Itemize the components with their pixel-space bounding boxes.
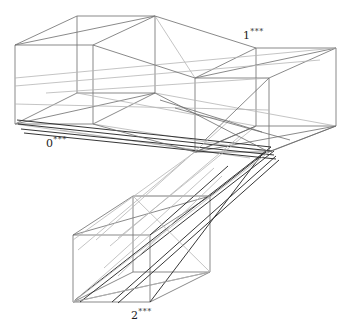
box-0-front-face (15, 45, 93, 124)
label-0-star: 0*** (46, 136, 67, 149)
figure-container: 0*** 1*** 2*** (0, 0, 346, 331)
box-2-edge-br (150, 272, 210, 302)
wireframe-diagram (0, 0, 346, 331)
box-0-edge-bl (15, 93, 77, 124)
label-2-superscript: *** (138, 307, 152, 316)
box-0-diag-top (15, 16, 155, 45)
box-1-diag-top (195, 48, 336, 78)
label-2-star: 2*** (131, 308, 152, 321)
descend-1 (268, 126, 336, 152)
label-1-superscript: *** (250, 27, 264, 36)
diagonal-dark-4 (118, 160, 279, 303)
diagonal-light-7 (78, 160, 185, 250)
box-1-edge-tr (269, 48, 336, 78)
label-1-star: 1*** (243, 28, 264, 41)
box-0-edge-tl (15, 16, 77, 45)
sweep-2 (93, 45, 195, 78)
diagonal-light-12 (73, 272, 210, 302)
connector-light-7 (155, 93, 336, 126)
box-0-back-face (77, 16, 155, 93)
box-1-front-face (256, 48, 336, 126)
connector-light-10 (155, 16, 195, 78)
box-1-diag-bot (195, 126, 336, 152)
sweep-1 (155, 16, 256, 48)
box-0-edge-tr (93, 16, 155, 45)
label-0-superscript: *** (53, 135, 67, 144)
box-0-wireframe (15, 16, 155, 124)
box-2-diag-top (73, 196, 210, 235)
box-1-edge-tl (195, 48, 256, 78)
box-0-diag-bot (15, 93, 155, 124)
sweep-5 (175, 108, 290, 140)
sweep-6 (160, 100, 262, 132)
diagonal-light-3 (110, 136, 240, 246)
box-1-wireframe (195, 48, 336, 152)
